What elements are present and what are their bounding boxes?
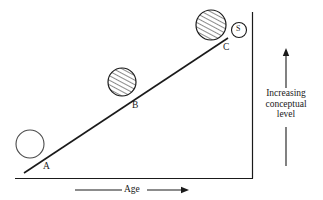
y-axis-arrowhead-icon xyxy=(283,48,289,56)
point-label-b: B xyxy=(132,100,138,111)
point-label-c: C xyxy=(223,42,229,53)
point-circle-a xyxy=(16,130,44,158)
trend-line xyxy=(24,38,228,173)
marker-s-label: S xyxy=(236,25,240,34)
y-axis-label-line-2: conceptual xyxy=(255,99,317,110)
figure-container: A B C S Age Increasing conceptual level xyxy=(0,0,323,200)
y-axis-label-line-1: Increasing xyxy=(255,88,317,99)
x-axis-label: Age xyxy=(124,184,140,195)
point-label-a: A xyxy=(43,161,50,172)
x-axis-arrowhead-icon xyxy=(181,187,189,193)
point-circle-c xyxy=(196,10,226,40)
y-axis-label: Increasing conceptual level xyxy=(255,88,317,120)
y-axis-label-line-3: level xyxy=(255,109,317,120)
point-circle-b xyxy=(108,68,136,96)
